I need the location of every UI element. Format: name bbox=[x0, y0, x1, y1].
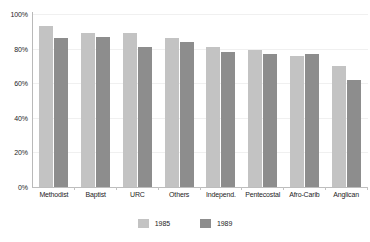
y-axis-labels: 0%20%40%60%80%100% bbox=[0, 0, 31, 192]
bar-1985-anglican bbox=[332, 66, 346, 187]
bar-group bbox=[33, 14, 75, 187]
legend-item-1985[interactable]: 1985 bbox=[138, 219, 170, 228]
bar-1989-methodist bbox=[54, 38, 68, 187]
y-tick-label: 60% bbox=[14, 80, 28, 87]
legend-swatch-icon bbox=[138, 219, 149, 228]
bar-1989-urc bbox=[138, 47, 152, 187]
bar-chart: 0%20%40%60%80%100% MethodistBaptistURCOt… bbox=[0, 0, 370, 242]
bar-1989-others bbox=[180, 42, 194, 187]
x-category-label: Baptist bbox=[75, 191, 117, 207]
bar-group bbox=[75, 14, 117, 187]
bar-1989-baptist bbox=[96, 37, 110, 188]
plot-area bbox=[33, 14, 367, 187]
bar-group bbox=[158, 14, 200, 187]
x-category-label: Independ. bbox=[200, 191, 242, 207]
legend-label: 1985 bbox=[155, 220, 170, 227]
legend-label: 1989 bbox=[217, 220, 232, 227]
x-category-label: Others bbox=[158, 191, 200, 207]
bar-1985-afro-carib bbox=[290, 56, 304, 187]
legend-swatch-icon bbox=[200, 219, 211, 228]
bar-group bbox=[242, 14, 284, 187]
bar-group bbox=[117, 14, 159, 187]
bar-group bbox=[325, 14, 367, 187]
x-category-label: Anglican bbox=[325, 191, 367, 207]
y-tick-label: 40% bbox=[14, 114, 28, 121]
bar-1985-methodist bbox=[39, 26, 53, 187]
legend: 19851989 bbox=[0, 219, 370, 228]
bar-1989-afro-carib bbox=[305, 54, 319, 187]
x-category-label: Afro-Carib bbox=[284, 191, 326, 207]
x-axis-labels: MethodistBaptistURCOthersIndepend.Pentec… bbox=[33, 191, 367, 207]
bar-1989-independ bbox=[221, 52, 235, 187]
bar-group bbox=[284, 14, 326, 187]
bar-1985-urc bbox=[123, 33, 137, 187]
bar-1985-baptist bbox=[81, 33, 95, 187]
bar-1985-pentecostal bbox=[248, 50, 262, 187]
bar-1985-others bbox=[165, 38, 179, 187]
x-category-label: Methodist bbox=[33, 191, 75, 207]
y-tick-label: 0% bbox=[18, 184, 28, 191]
y-tick-label: 80% bbox=[14, 45, 28, 52]
legend-item-1989[interactable]: 1989 bbox=[200, 219, 232, 228]
bar-1985-independ bbox=[206, 47, 220, 187]
x-category-label: Pentecostal bbox=[242, 191, 284, 207]
bar-group bbox=[200, 14, 242, 187]
x-category-label: URC bbox=[117, 191, 159, 207]
bar-1989-anglican bbox=[347, 80, 361, 187]
bar-1989-pentecostal bbox=[263, 54, 277, 187]
y-tick-label: 20% bbox=[14, 149, 28, 156]
plot-wrap: 0%20%40%60%80%100% MethodistBaptistURCOt… bbox=[0, 0, 370, 192]
y-tick-label: 100% bbox=[10, 11, 28, 18]
